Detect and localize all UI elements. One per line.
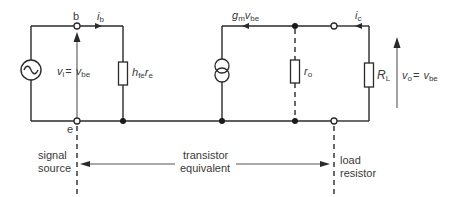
output-voltage-label: vo=vbe <box>402 69 438 83</box>
load-resistor-label-line1: load <box>340 154 361 166</box>
output-resistor-label: ro <box>304 65 313 79</box>
input-resistor-icon <box>119 62 128 85</box>
base-current-label: ib <box>97 10 104 24</box>
collector-current-label: ic <box>355 9 361 23</box>
base-label: b <box>73 10 79 22</box>
emitter-label: e <box>67 123 73 135</box>
signal-source-label-line1: signal <box>38 149 67 161</box>
controlled-current-label: gmvbe <box>232 9 260 23</box>
output-ground-node <box>331 118 337 124</box>
output-resistor-icon <box>291 29 300 118</box>
base-node: b <box>73 10 80 29</box>
controlled-current-arrow-icon <box>242 23 249 29</box>
input-resistor-label: hfere <box>132 66 153 80</box>
collector-current-arrow-icon <box>355 23 362 29</box>
current-source-icon <box>215 59 229 82</box>
output-voltage-arrow-icon <box>394 37 401 108</box>
input-voltage-label: vi=vbe <box>57 65 91 79</box>
collector-node <box>331 23 337 29</box>
transistor-equivalent-label-line1: transistor <box>183 149 229 161</box>
ac-source-icon <box>21 60 41 80</box>
circuit-diagram: b e ib vi=vbe hfere gmvbe <box>0 0 453 197</box>
load-resistor-icon <box>365 63 374 87</box>
load-resistor-label: RL <box>377 68 391 83</box>
signal-source-label-line2: source <box>38 162 71 174</box>
load-resistor-label-line2: resistor <box>340 167 376 179</box>
transistor-equivalent-label-line2: equivalent <box>180 162 230 174</box>
